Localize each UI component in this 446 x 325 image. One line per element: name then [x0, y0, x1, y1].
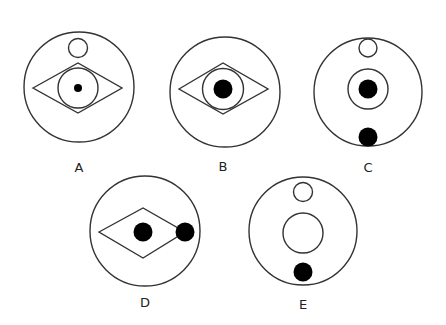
right-vertex-black-dot [176, 223, 195, 242]
figure-a: A [24, 32, 134, 175]
center-black-dot [134, 223, 153, 242]
figure-d: D [90, 176, 200, 310]
large-black-dot [359, 80, 378, 99]
bottom-black-dot [294, 263, 313, 282]
figure-b: B [170, 37, 280, 174]
figure-e: E [249, 177, 357, 312]
figure-label: E [299, 297, 307, 312]
figure-label: C [363, 160, 372, 175]
figure-label: A [75, 160, 84, 175]
figure-label: B [219, 159, 228, 174]
inner-open-circle [283, 213, 323, 253]
figure-label: D [140, 295, 150, 310]
small-black-dot [74, 84, 82, 92]
bottom-black-dot [359, 128, 378, 147]
small-open-circle [359, 39, 377, 57]
large-black-dot [214, 80, 233, 99]
small-open-circle [69, 39, 88, 58]
small-open-circle [294, 183, 313, 202]
figure-c: C [314, 38, 422, 175]
figure-set: A B C D E [0, 0, 446, 325]
